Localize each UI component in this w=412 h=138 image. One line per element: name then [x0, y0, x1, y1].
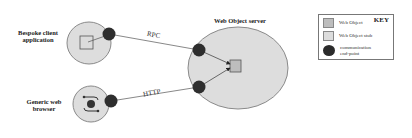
browser-label: Generic web browser: [20, 98, 68, 112]
legend-item-web-object-stub: Web Object stub: [323, 31, 372, 41]
legend-label-line2: end-point: [340, 51, 371, 57]
legend: KEY Web Object Web Object stub communica…: [318, 14, 394, 60]
legend-label: Web Object: [339, 20, 363, 26]
legend-item-endpoint: communication end-point: [323, 45, 371, 56]
legend-label-line1: communication: [340, 45, 371, 51]
browser-label-line1: Generic web: [20, 98, 68, 105]
client-label-line2: application: [12, 36, 64, 43]
legend-label: Web Object stub: [339, 33, 372, 39]
web-object-icon: [230, 60, 241, 72]
endpoint-swatch-icon: [323, 45, 335, 56]
server-rpc-endpoint-icon: [193, 44, 206, 57]
client-label-line1: Bespoke client: [12, 29, 64, 36]
server-http-endpoint-icon: [193, 81, 206, 94]
legend-label: communication end-point: [340, 45, 371, 56]
client-label: Bespoke client application: [12, 29, 64, 43]
browser-label-line2: browser: [20, 105, 68, 112]
legend-item-web-object: Web Object: [323, 18, 363, 28]
legend-title: KEY: [374, 16, 389, 24]
web-object-stub-swatch-icon: [323, 31, 334, 41]
server-label: Web Object server: [205, 17, 275, 24]
browser-endpoint-icon: [105, 95, 118, 108]
web-object-swatch-icon: [323, 18, 334, 28]
client-endpoint-icon: [103, 28, 116, 41]
web-object-stub-icon: [80, 36, 93, 49]
